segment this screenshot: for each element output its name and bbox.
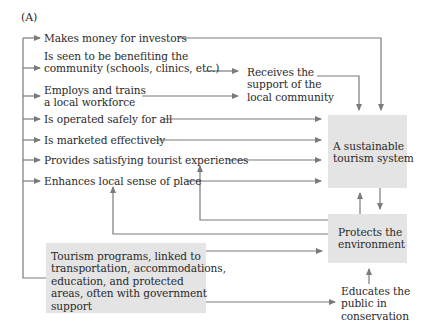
environment-box-label: Protects the environment bbox=[338, 226, 405, 251]
educates-line-1: Educates the bbox=[341, 285, 410, 297]
item-investors-line: Makes money for investors bbox=[44, 32, 187, 44]
item-experiences-line: Provides satisfying tourist experiences bbox=[44, 154, 248, 166]
trunk-line bbox=[23, 38, 46, 278]
programs-box-label: Tourism programs, linked to transportati… bbox=[51, 250, 226, 312]
item-workforce: Employs and trains a local workforce bbox=[44, 84, 146, 109]
sustainable-line-1: A sustainable bbox=[333, 140, 414, 152]
sustainable-line-2: tourism system bbox=[333, 152, 414, 164]
item-workforce-line-2: a local workforce bbox=[44, 96, 146, 108]
support-line-1: Receives the bbox=[247, 66, 334, 78]
item-place-line: Enhances local sense of place bbox=[44, 175, 201, 187]
item-workforce-line-1: Employs and trains bbox=[44, 84, 146, 96]
sustainable-box-label: A sustainable tourism system bbox=[333, 140, 414, 165]
arrow-environment-to-place bbox=[113, 187, 328, 234]
support-line-2: support of the bbox=[247, 78, 334, 90]
educates-line-3: conservation bbox=[341, 310, 410, 322]
arrow-environment-to-experiences bbox=[200, 166, 328, 220]
environment-line-1: Protects the bbox=[338, 226, 405, 238]
item-community-line-1: Is seen to be benefiting the bbox=[44, 50, 219, 62]
item-marketing-line: Is marketed effectively bbox=[44, 134, 165, 146]
item-community: Is seen to be benefiting the community (… bbox=[44, 50, 219, 75]
programs-line-3: education, and protected bbox=[51, 275, 226, 287]
item-place: Enhances local sense of place bbox=[44, 175, 201, 187]
item-marketing: Is marketed effectively bbox=[44, 134, 165, 146]
programs-line-5: support bbox=[51, 300, 226, 312]
item-experiences: Provides satisfying tourist experiences bbox=[44, 154, 248, 166]
support-node: Receives the support of the local commun… bbox=[247, 66, 334, 103]
environment-line-2: environment bbox=[338, 238, 405, 250]
support-line-3: local community bbox=[247, 91, 334, 103]
programs-line-1: Tourism programs, linked to bbox=[51, 250, 226, 262]
item-investors: Makes money for investors bbox=[44, 32, 187, 44]
programs-line-4: areas, often with government bbox=[51, 287, 226, 299]
item-safety: Is operated safely for all bbox=[44, 113, 172, 125]
item-community-line-2: community (schools, clinics, etc.) bbox=[44, 62, 219, 74]
educates-node: Educates the public in conservation bbox=[341, 285, 410, 322]
item-safety-line: Is operated safely for all bbox=[44, 113, 172, 125]
programs-line-2: transportation, accommodations, bbox=[51, 262, 226, 274]
educates-line-2: public in bbox=[341, 297, 410, 309]
